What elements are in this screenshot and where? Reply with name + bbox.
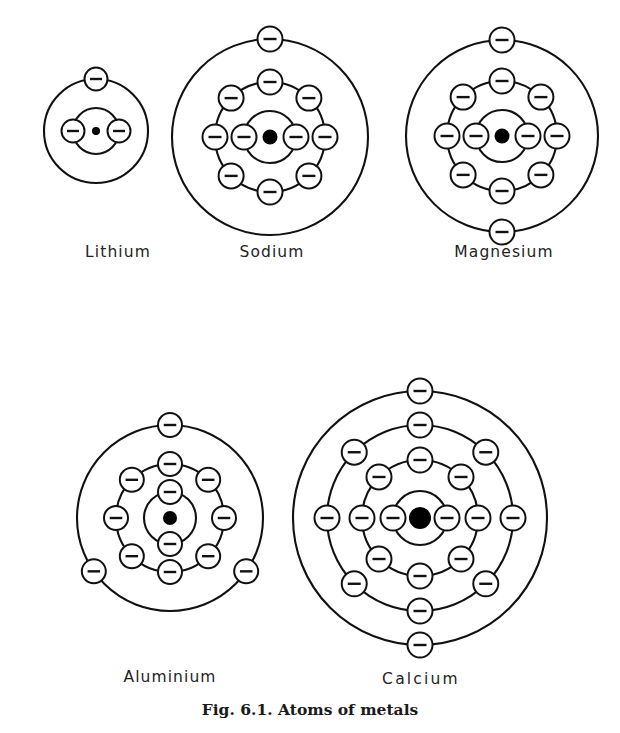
atom-aluminium-shell-3-electron-3 [82,559,106,583]
atom-calcium-shell-2-electron-7 [350,506,375,531]
atom-magnesium-shell-2-electron-7 [435,124,460,149]
atom-calcium-shell-3-electron-8 [342,440,367,465]
atom-calcium-shell-2-electron-2 [449,464,474,489]
atom-sodium-shell-2-electron-6 [219,163,244,188]
atom-sodium-shell-2-electron-7 [203,125,228,150]
atom-label-sodium: Sodium [240,243,305,261]
atom-magnesium-shell-2-electron-3 [545,124,570,149]
atom-label-calcium: Calcium [382,670,460,688]
atom-sodium-shell-2-electron-5 [258,180,283,205]
atom-aluminium-shell-3-electron-2 [234,559,258,583]
atom-magnesium [406,28,598,245]
atom-sodium-shell-2-electron-8 [219,86,244,111]
atom-lithium-shell-1-electron-1 [62,120,85,143]
atom-calcium-shell-2-electron-4 [449,547,474,572]
atom-sodium-nucleus [263,130,278,145]
atom-lithium-nucleus [92,127,100,135]
atom-aluminium-shell-2-electron-1 [158,452,182,476]
atom-calcium-shell-1-electron-2 [435,506,460,531]
atom-aluminium-shell-2-electron-3 [212,506,236,530]
atom-aluminium-shell-2-electron-7 [104,506,128,530]
atom-calcium-nucleus [409,507,431,529]
atomic-diagrams-canvas [0,0,620,733]
atom-calcium-shell-2-electron-6 [366,547,391,572]
atom-aluminium-shell-2-electron-8 [120,468,144,492]
atom-sodium-shell-2-electron-3 [313,125,338,150]
atom-sodium-shell-3-electron-1 [258,27,283,52]
atom-calcium-shell-3-electron-4 [473,571,498,596]
atom-magnesium-shell-1-electron-1 [464,124,489,149]
atom-aluminium-shell-3-electron-1 [158,413,182,437]
atom-calcium-shell-2-electron-3 [466,506,491,531]
atom-aluminium-shell-1-electron-1 [158,480,182,504]
atom-calcium-shell-3-electron-5 [408,599,433,624]
atom-label-aluminium: Aluminium [123,668,216,686]
atom-aluminium-shell-2-electron-2 [196,468,220,492]
atom-calcium-shell-3-electron-1 [408,413,433,438]
atom-magnesium-shell-2-electron-8 [451,85,476,110]
atom-aluminium-shell-2-electron-4 [196,544,220,568]
atom-lithium [44,68,148,184]
atom-magnesium-shell-3-electron-1 [490,28,515,53]
atom-magnesium-shell-3-electron-2 [490,220,515,245]
figure-caption: Fig. 6.1. Atoms of metals [202,700,419,719]
atom-magnesium-shell-2-electron-2 [528,85,553,110]
atom-magnesium-shell-2-electron-5 [490,179,515,204]
atom-label-lithium: Lithium [85,243,151,261]
atom-sodium-shell-2-electron-1 [258,70,283,95]
atom-calcium-shell-1-electron-1 [381,506,406,531]
atom-calcium-shell-3-electron-7 [315,506,340,531]
atom-magnesium-shell-2-electron-6 [451,162,476,187]
atom-magnesium-shell-2-electron-4 [528,162,553,187]
atom-calcium-shell-3-electron-6 [342,571,367,596]
atom-magnesium-shell-2-electron-1 [490,69,515,94]
atom-lithium-shell-1-electron-2 [108,120,131,143]
atom-calcium [293,379,547,658]
atom-calcium-shell-3-electron-2 [473,440,498,465]
atom-aluminium-shell-2-electron-6 [120,544,144,568]
atom-calcium-shell-4-electron-2 [408,633,433,658]
atom-calcium-shell-2-electron-8 [366,464,391,489]
atom-magnesium-nucleus [495,129,510,144]
atom-sodium-shell-1-electron-2 [284,125,309,150]
atom-label-magnesium: Magnesium [454,243,553,261]
atom-aluminium-nucleus [163,511,177,525]
atom-calcium-shell-2-electron-1 [408,448,433,473]
atom-sodium-shell-2-electron-4 [296,163,321,188]
atom-calcium-shell-3-electron-3 [501,506,526,531]
atom-aluminium [77,413,263,611]
atom-sodium-shell-2-electron-2 [296,86,321,111]
atom-calcium-shell-4-electron-1 [408,379,433,404]
atom-sodium-shell-1-electron-1 [232,125,257,150]
figure-atoms-of-metals: LithiumSodiumMagnesiumAluminiumCalcium F… [0,0,620,733]
atom-aluminium-shell-1-electron-2 [158,532,182,556]
atom-magnesium-shell-1-electron-2 [516,124,541,149]
atom-lithium-shell-2-electron-1 [85,68,108,91]
atom-sodium [172,27,368,236]
atom-calcium-shell-2-electron-5 [408,564,433,589]
atom-aluminium-shell-2-electron-5 [158,560,182,584]
